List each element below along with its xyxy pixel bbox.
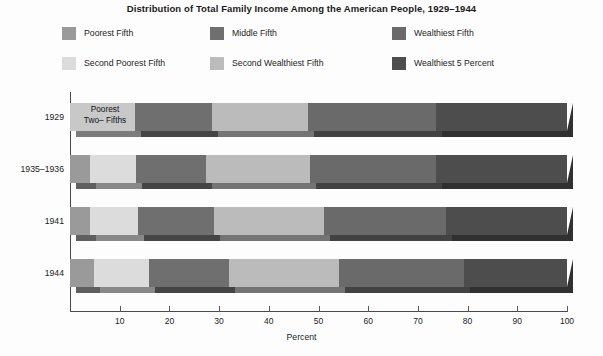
legend-item[interactable]: Wealthiest Fifth (392, 26, 474, 40)
bar-segment-depth (155, 287, 236, 293)
legend-item-label: Poorest Fifth (84, 28, 133, 38)
bar-row[interactable]: PoorestTwo– Fifths (0, 103, 603, 137)
bar-segment[interactable] (310, 155, 436, 183)
bar-segment[interactable] (214, 207, 325, 235)
bar-segment[interactable] (308, 103, 436, 131)
bar-segment-depth (141, 131, 218, 137)
x-tick (517, 306, 518, 312)
bar-end-cap (567, 155, 573, 183)
legend-swatch-icon (392, 27, 406, 40)
x-tick (368, 306, 369, 312)
legend-item-label: Second Wealthiest Fifth (232, 58, 324, 68)
x-tick (120, 306, 121, 312)
bar-end-cap (567, 207, 573, 235)
legend-item-label: Wealthiest 5 Percent (414, 58, 494, 68)
legend-swatch-icon (210, 27, 224, 40)
bar-segment-depth (442, 183, 573, 189)
bar-segment-depth (212, 183, 316, 189)
bar-segment[interactable] (70, 155, 90, 183)
bar-segment[interactable] (324, 207, 446, 235)
x-tick-label: 40 (254, 316, 284, 326)
bar-segment-depth (76, 183, 96, 189)
x-tick (319, 306, 320, 312)
bar-segment-depth (142, 183, 212, 189)
bar-segment-depth (96, 235, 143, 241)
bar-segment[interactable] (70, 207, 90, 235)
legend-item-label: Second Poorest Fifth (84, 58, 165, 68)
bar-segment-depth (235, 287, 345, 293)
bar-segment-depth (330, 235, 452, 241)
bar-segment[interactable] (436, 103, 567, 131)
bar-segment-depth (470, 287, 573, 293)
bar-segment[interactable] (212, 103, 308, 131)
bar-segment[interactable] (446, 207, 567, 235)
legend-item[interactable]: Poorest Fifth (62, 26, 133, 40)
bar-segment[interactable] (90, 207, 137, 235)
bar-end-cap (567, 103, 573, 131)
x-tick (269, 306, 270, 312)
x-tick-label: 80 (453, 316, 483, 326)
bar-segment[interactable] (464, 259, 567, 287)
legend-item[interactable]: Second Poorest Fifth (62, 56, 165, 70)
bar-segment-depth (144, 235, 220, 241)
bar-segment[interactable] (135, 103, 212, 131)
bar-segment-depth (345, 287, 469, 293)
bar-segment-annotation: PoorestTwo– Fifths (74, 104, 136, 126)
bar-segment[interactable] (138, 207, 214, 235)
bar-segment[interactable] (70, 259, 94, 287)
x-tick (169, 306, 170, 312)
chart-page: Distribution of Total Family Income Amon… (0, 0, 603, 356)
bar-segment-depth (220, 235, 331, 241)
x-tick-label: 90 (502, 316, 532, 326)
x-tick (567, 306, 568, 312)
chart-title: Distribution of Total Family Income Amon… (0, 3, 603, 14)
bar-segment-depth (442, 131, 573, 137)
bar-segment[interactable] (94, 259, 148, 287)
legend-swatch-icon (392, 57, 406, 70)
x-tick-label: 60 (353, 316, 383, 326)
x-tick-label: 70 (403, 316, 433, 326)
bar-segment[interactable] (229, 259, 339, 287)
bar-row[interactable] (0, 259, 603, 293)
bar-segment-depth (96, 183, 142, 189)
bar-segment[interactable]: PoorestTwo– Fifths (70, 103, 135, 131)
x-tick-label: 100 (552, 316, 582, 326)
x-tick (418, 306, 419, 312)
chart-legend: Poorest FifthMiddle FifthWealthiest Fift… (62, 26, 567, 86)
bar-segment-depth (76, 287, 100, 293)
legend-item[interactable]: Wealthiest 5 Percent (392, 56, 494, 70)
legend-swatch-icon (210, 57, 224, 70)
bar-segment[interactable] (339, 259, 463, 287)
bar-segment-depth (76, 131, 141, 137)
bar-segment-depth (100, 287, 154, 293)
bar-row[interactable] (0, 207, 603, 241)
legend-swatch-icon (62, 57, 76, 70)
bar-segment-depth (316, 183, 442, 189)
legend-item-label: Middle Fifth (232, 28, 277, 38)
legend-swatch-icon (62, 27, 76, 40)
bar-segment[interactable] (436, 155, 567, 183)
x-axis-label: Percent (0, 332, 603, 342)
bar-end-cap (567, 259, 573, 287)
legend-item[interactable]: Second Wealthiest Fifth (210, 56, 324, 70)
bar-segment[interactable] (149, 259, 230, 287)
bar-segment-depth (314, 131, 442, 137)
x-tick-label: 30 (204, 316, 234, 326)
legend-item[interactable]: Middle Fifth (210, 26, 277, 40)
x-tick-label: 10 (105, 316, 135, 326)
bar-segment-depth (76, 235, 96, 241)
bar-segment-depth (218, 131, 314, 137)
bar-segment[interactable] (136, 155, 206, 183)
bar-segment-depth (452, 235, 573, 241)
x-tick-label: 50 (304, 316, 334, 326)
x-tick (468, 306, 469, 312)
legend-item-label: Wealthiest Fifth (414, 28, 474, 38)
x-tick (219, 306, 220, 312)
x-tick-label: 20 (154, 316, 184, 326)
bar-row[interactable] (0, 155, 603, 189)
bar-segment[interactable] (90, 155, 136, 183)
bar-segment[interactable] (206, 155, 310, 183)
